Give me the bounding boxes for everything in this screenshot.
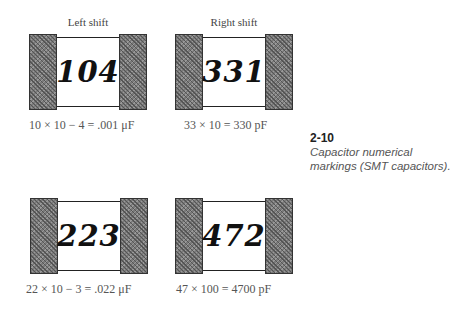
left-terminal-pad bbox=[175, 198, 203, 274]
capacitor-code: 104 bbox=[57, 34, 119, 110]
right-terminal-pad bbox=[120, 198, 148, 274]
figure-description-line1: Capacitor numerical bbox=[310, 145, 451, 159]
capacitor-code: 331 bbox=[203, 34, 265, 110]
right-shift-label: Right shift bbox=[200, 16, 268, 28]
capacitor-caption: 22 × 10 − 3 = .022 μF bbox=[26, 282, 131, 297]
left-terminal-pad bbox=[30, 198, 58, 274]
capacitor-code: 472 bbox=[203, 198, 265, 274]
left-terminal-pad bbox=[29, 34, 57, 110]
right-terminal-pad bbox=[265, 198, 293, 274]
capacitor-331: 331 bbox=[175, 34, 293, 110]
capacitor-code: 223 bbox=[58, 198, 120, 274]
left-shift-label: Left shift bbox=[58, 16, 118, 28]
capacitor-472: 472 bbox=[175, 198, 293, 274]
figure-caption: 2-10 Capacitor numerical markings (SMT c… bbox=[310, 132, 451, 173]
capacitor-223: 223 bbox=[30, 198, 148, 274]
capacitor-104: 104 bbox=[29, 34, 147, 110]
right-terminal-pad bbox=[119, 34, 147, 110]
left-terminal-pad bbox=[175, 34, 203, 110]
figure-number: 2-10 bbox=[310, 132, 451, 145]
capacitor-caption: 33 × 10 = 330 pF bbox=[184, 118, 267, 133]
capacitor-caption: 47 × 100 = 4700 pF bbox=[176, 282, 271, 297]
right-terminal-pad bbox=[265, 34, 293, 110]
figure-description-line2: markings (SMT capacitors). bbox=[310, 159, 451, 173]
capacitor-caption: 10 × 10 − 4 = .001 μF bbox=[29, 118, 134, 133]
